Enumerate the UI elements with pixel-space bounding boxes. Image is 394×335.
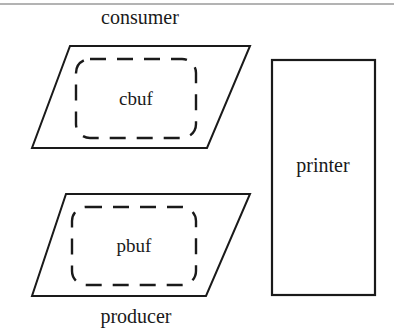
- producer-label: producer: [100, 305, 171, 328]
- pbuf-label: pbuf: [117, 235, 153, 256]
- cbuf-label: cbuf: [119, 88, 153, 109]
- diagram-canvas: consumer cbuf producer pbuf printer: [0, 0, 394, 335]
- printer-label: printer: [296, 154, 350, 177]
- printer-rectangle[interactable]: [272, 60, 375, 295]
- consumer-label: consumer: [101, 6, 179, 28]
- diagram-svg: consumer cbuf producer pbuf printer: [0, 0, 394, 335]
